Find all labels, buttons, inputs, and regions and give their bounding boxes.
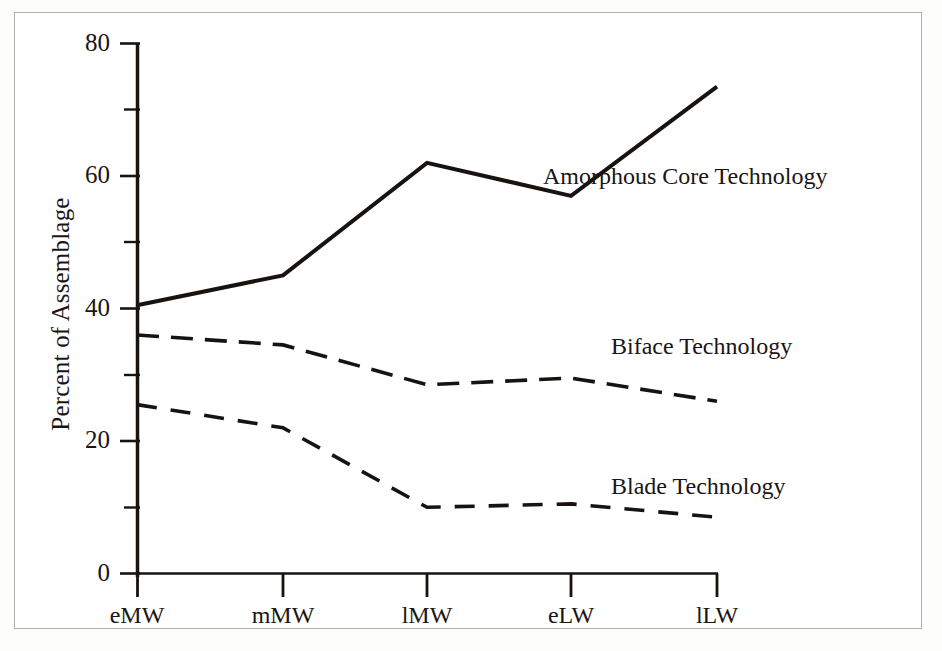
series-line-blade <box>137 405 717 518</box>
x-tick-label-lmw: lMW <box>367 602 487 629</box>
y-tick-label-0: 0 <box>50 559 110 587</box>
series-label-blade: Blade Technology <box>611 473 786 500</box>
chart-canvas <box>0 0 942 651</box>
y-tick-label-20: 20 <box>50 426 110 454</box>
x-ticks <box>138 573 718 597</box>
y-tick-label-80: 80 <box>50 29 110 57</box>
series-label-amorphous: Amorphous Core Technology <box>543 163 828 190</box>
plot-area: Percent of Assemblage 80 60 40 20 0 eMW … <box>0 0 942 651</box>
series-label-biface: Biface Technology <box>611 333 792 360</box>
x-tick-label-elw: eLW <box>511 602 631 629</box>
series-line-amorphous <box>137 87 717 306</box>
x-tick-label-emw: eMW <box>77 602 197 629</box>
chart-figure: Percent of Assemblage 80 60 40 20 0 eMW … <box>0 0 942 651</box>
y-tick-label-60: 60 <box>50 161 110 189</box>
x-tick-label-mmw: mMW <box>223 602 343 629</box>
x-tick-label-llw: lLW <box>657 602 777 629</box>
y-tick-label-40: 40 <box>50 294 110 322</box>
